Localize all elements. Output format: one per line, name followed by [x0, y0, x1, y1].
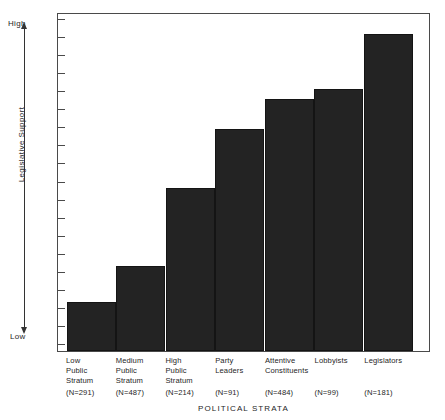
x-axis-label: Lobbyists(N=99)	[315, 356, 365, 402]
x-axis-label: HighPublicStratum(N=214)	[165, 356, 215, 402]
x-axis-label: MediumPublicStratum(N=487)	[116, 356, 166, 402]
bar-slot	[314, 14, 363, 351]
x-axis-label-text: LowPublicStratum	[66, 356, 116, 387]
bar[interactable]	[364, 34, 413, 351]
x-axis-label-text: PartyLeaders	[215, 356, 265, 376]
x-axis-label-text: Lobbyists	[315, 356, 365, 366]
x-axis-label-text: AttentiveConstituents	[265, 356, 315, 376]
x-axis-sample-size: (N=91)	[215, 388, 265, 398]
x-axis-label: Legislators(N=181)	[364, 356, 414, 402]
bar[interactable]	[265, 99, 314, 351]
bar-slot	[215, 14, 264, 351]
bar[interactable]	[166, 188, 215, 352]
x-axis-label: AttentiveConstituents(N=484)	[265, 356, 315, 402]
bar[interactable]	[116, 266, 165, 351]
x-axis-label-text: MediumPublicStratum	[116, 356, 166, 387]
x-axis-sample-size: (N=487)	[116, 388, 166, 398]
bar-chart-figure: High Low Legislative Support LowPublicSt…	[0, 0, 445, 420]
y-axis-title: Legislative Support	[17, 80, 26, 210]
x-axis-label-text: HighPublicStratum	[165, 356, 215, 387]
x-axis-label: LowPublicStratum(N=291)	[66, 356, 116, 402]
x-axis-label-text: Legislators	[364, 356, 414, 366]
x-axis-sample-size: (N=291)	[66, 388, 116, 398]
bar-slot	[265, 14, 314, 351]
x-axis-sample-size: (N=214)	[165, 388, 215, 398]
x-axis-title: POLITICAL STRATA	[57, 404, 430, 413]
bar-slot	[67, 14, 116, 351]
x-axis-sample-size: (N=99)	[315, 388, 365, 398]
x-axis-sample-size: (N=181)	[364, 388, 414, 398]
bar-series	[58, 14, 429, 351]
bar-slot	[116, 14, 165, 351]
bar[interactable]	[314, 89, 363, 351]
x-axis-label: PartyLeaders(N=91)	[215, 356, 265, 402]
x-axis-sample-size: (N=484)	[265, 388, 315, 398]
bar[interactable]	[67, 302, 116, 351]
bar-slot	[364, 14, 413, 351]
x-axis-label-group: LowPublicStratum(N=291)MediumPublicStrat…	[57, 356, 430, 402]
y-axis-low-label: Low	[10, 332, 26, 341]
bar-slot	[166, 14, 215, 351]
bar[interactable]	[215, 129, 264, 351]
plot-area	[57, 13, 430, 352]
